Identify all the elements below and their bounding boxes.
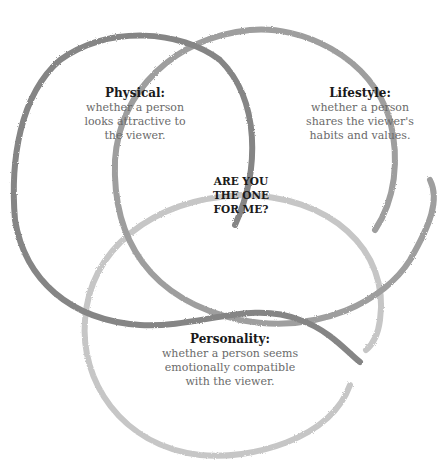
venn-diagram (0, 0, 447, 466)
center-line: ARE YOU (203, 174, 279, 188)
center-line: THE ONE (203, 188, 279, 202)
physical-title: Physical: (55, 86, 215, 101)
center-line: FOR ME? (203, 202, 279, 216)
physical-label: Physical: whether a person looks attract… (55, 86, 215, 143)
center-question: ARE YOU THE ONE FOR ME? (203, 174, 279, 216)
lifestyle-title: Lifestyle: (280, 86, 440, 101)
physical-desc-line: the viewer. (55, 129, 215, 143)
physical-desc-line: looks attractive to (55, 115, 215, 129)
lifestyle-desc-line: whether a person (280, 101, 440, 115)
personality-desc-line: with the viewer. (135, 375, 325, 389)
lifestyle-desc-line: habits and values. (280, 129, 440, 143)
personality-label: Personality: whether a person seems emot… (135, 332, 325, 389)
physical-circle (14, 36, 360, 362)
physical-desc-line: whether a person (55, 101, 215, 115)
personality-title: Personality: (135, 332, 325, 347)
lifestyle-label: Lifestyle: whether a person shares the v… (280, 86, 440, 143)
personality-desc-line: emotionally compatible (135, 361, 325, 375)
lifestyle-desc-line: shares the viewer's (280, 115, 440, 129)
personality-desc-line: whether a person seems (135, 347, 325, 361)
